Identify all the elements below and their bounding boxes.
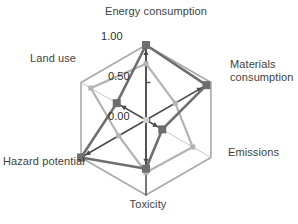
radial-tick-1-00: 1.00: [101, 30, 123, 42]
axis-label-emissions: Emissions: [228, 146, 298, 159]
axis-label-toxicity: Toxicity: [108, 198, 188, 211]
axis-label-materials-consumption: Materials consumption: [230, 58, 296, 83]
radar-chart: Energy consumption Materials consumption…: [0, 0, 298, 224]
radial-tick-0-50: 0.50: [108, 70, 130, 82]
axis-label-land-use: Land use: [30, 52, 100, 65]
radial-tick-0-00: 0.00: [108, 110, 130, 122]
radar-plot-area: [0, 0, 298, 224]
axis-label-energy-consumption: Energy consumption: [96, 5, 216, 18]
axis-label-hazard-potential: Hazard potential: [3, 155, 103, 168]
